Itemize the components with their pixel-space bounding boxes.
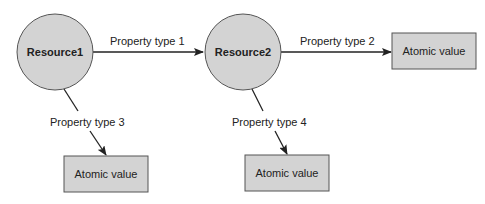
box-label: Atomic value [403,45,466,57]
box-label: Atomic value [256,167,319,179]
atomic-value-box-2: Atomic value [64,156,148,192]
edge-label: Property type 4 [232,116,307,128]
box-label: Atomic value [75,168,138,180]
resource-node-1: Resource1 [17,14,93,90]
edge-property-type-1: Property type 1 [93,35,203,52]
edge-label: Property type 3 [50,116,125,128]
edge-label: Property type 1 [110,35,185,47]
node-label: Resource2 [215,46,271,58]
resource-node-2: Resource2 [205,14,281,90]
edge-property-type-2: Property type 2 [281,35,391,52]
edge-property-type-4: Property type 4 [232,89,307,154]
edge-property-type-3: Property type 3 [50,89,125,155]
atomic-value-box-1: Atomic value [392,33,476,69]
rdf-graph-diagram: Property type 1 Property type 2 Property… [0,0,485,204]
node-label: Resource1 [27,46,83,58]
edge-label: Property type 2 [300,35,375,47]
atomic-value-box-3: Atomic value [245,155,329,191]
